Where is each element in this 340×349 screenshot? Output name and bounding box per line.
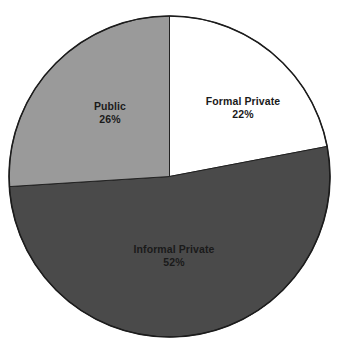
pie-label-informal-private: Informal Private 52% [134, 243, 215, 269]
pie-label-informal-private-name: Informal Private [134, 243, 215, 256]
pie-slice-public[interactable] [9, 16, 169, 187]
pie-label-public-name: Public [94, 100, 126, 113]
pie-label-formal-private-name: Formal Private [206, 95, 280, 108]
pie-label-public: Public 26% [94, 100, 126, 126]
pie-slices [9, 16, 330, 337]
pie-label-formal-private-value: 22% [206, 108, 280, 121]
pie-chart-canvas [0, 0, 340, 349]
pie-label-public-value: 26% [94, 113, 126, 126]
pie-label-formal-private: Formal Private 22% [206, 95, 280, 121]
pie-chart: Formal Private 22% Public 26% Informal P… [0, 0, 340, 349]
pie-label-informal-private-value: 52% [134, 256, 215, 269]
